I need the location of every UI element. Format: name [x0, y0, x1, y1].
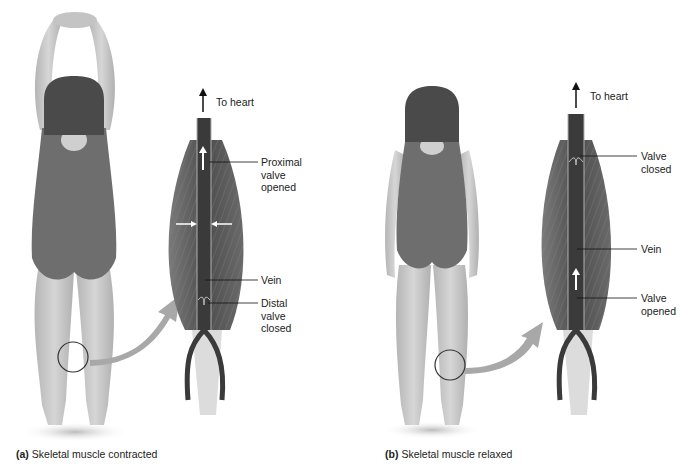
- caption-letter: (a): [16, 448, 29, 460]
- label-vein: Vein: [641, 243, 661, 256]
- muscle-vein-detail-contracted: [169, 118, 244, 415]
- muscle-vein-detail-relaxed: [542, 114, 611, 415]
- label-upper-valve: Valve closed: [641, 150, 671, 175]
- panel-contracted: To heart Proximal valve opened Vein Dist…: [0, 0, 347, 476]
- person-figure-arms-raised: [20, 12, 130, 442]
- callout-arrow: [465, 322, 543, 374]
- panel-b-illustration: [347, 0, 694, 476]
- label-distal-valve: Distal valve closed: [261, 297, 291, 335]
- label-to-heart: To heart: [590, 90, 628, 103]
- label-vein: Vein: [261, 274, 281, 287]
- person-figure-arms-down: [382, 86, 482, 439]
- caption-a: (a)Skeletal muscle contracted: [16, 448, 157, 460]
- caption-b: (b)Skeletal muscle relaxed: [385, 448, 512, 460]
- caption-text: Skeletal muscle contracted: [32, 448, 157, 460]
- label-proximal-valve: Proximal valve opened: [261, 156, 302, 194]
- panel-a-illustration: [0, 0, 347, 476]
- panel-relaxed: To heart Valve closed Vein Valve opened …: [347, 0, 694, 476]
- caption-text: Skeletal muscle relaxed: [401, 448, 512, 460]
- label-to-heart: To heart: [216, 96, 254, 109]
- label-lower-valve: Valve opened: [641, 292, 676, 317]
- caption-letter: (b): [385, 448, 398, 460]
